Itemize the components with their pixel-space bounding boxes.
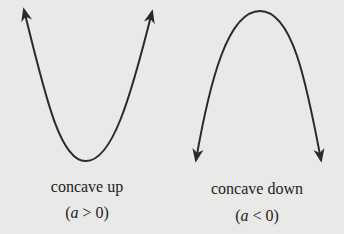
concave-up-condition: (a > 0) xyxy=(37,204,137,222)
concave-down-label: concave down xyxy=(197,180,317,198)
concave-down-condition: (a < 0) xyxy=(197,207,317,225)
concave-down-parabola xyxy=(196,11,321,160)
concave-up-label: concave up xyxy=(37,178,137,196)
concave-up-parabola xyxy=(24,10,152,161)
parabolas-diagram xyxy=(0,0,344,234)
